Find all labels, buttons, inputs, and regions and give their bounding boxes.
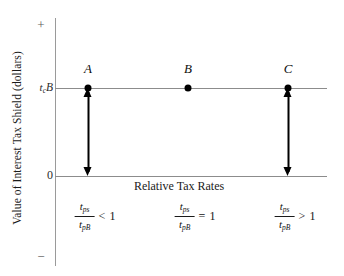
x-axis-title-text: Relative Tax Rates xyxy=(134,179,224,193)
formula-b-right: 1 xyxy=(209,209,215,224)
formula-c: tps tpB > 1 xyxy=(275,200,316,232)
arrow-point-a xyxy=(83,88,94,176)
fraction-c: tps tpB xyxy=(275,200,295,232)
point-c-label: C xyxy=(284,62,293,75)
x-axis-title: Relative Tax Rates xyxy=(0,179,344,194)
formula-b: tps tpB = 1 xyxy=(175,200,216,232)
fraction-a-num-sub: ps xyxy=(83,205,90,214)
fraction-b-num-sub: ps xyxy=(183,205,190,214)
fraction-b-den-sub: pB xyxy=(182,223,190,232)
fraction-c-num-sub: ps xyxy=(283,205,290,214)
axis-minus-sign: − xyxy=(33,250,49,263)
point-a-label: A xyxy=(84,62,92,75)
formula-c-relation: > xyxy=(299,209,306,224)
y-axis-title-text: Value of Interest Tax Shield (dollars) xyxy=(11,51,23,225)
point-c-marker xyxy=(285,85,292,92)
fraction-a-denominator: tpB xyxy=(77,217,92,233)
fraction-c-den-sub: pB xyxy=(282,223,290,232)
formula-a-relation: < xyxy=(99,209,106,224)
y-axis-line xyxy=(55,18,56,266)
arrow-shaft xyxy=(87,92,89,172)
fraction-a-numerator: tps xyxy=(78,200,92,216)
ytick-label-tcb: tcB xyxy=(40,82,53,95)
fraction-b-denominator: tpB xyxy=(177,217,192,233)
formula-b-relation: = xyxy=(199,209,206,224)
tax-shield-figure: Value of Interest Tax Shield (dollars) +… xyxy=(0,0,344,276)
gridline-zero xyxy=(55,176,327,177)
ytick-tcb-bond: B xyxy=(46,81,53,93)
arrow-shaft xyxy=(287,92,289,172)
point-b-label: B xyxy=(184,62,192,75)
fraction-c-numerator: tps xyxy=(278,200,292,216)
fraction-c-denominator: tpB xyxy=(277,217,292,233)
fraction-a-den-sub: pB xyxy=(82,223,90,232)
formula-a: tps tpB < 1 xyxy=(75,200,116,232)
axis-plus-sign: + xyxy=(33,18,49,31)
fraction-a: tps tpB xyxy=(75,200,95,232)
fraction-b: tps tpB xyxy=(175,200,195,232)
fraction-b-numerator: tps xyxy=(178,200,192,216)
arrow-point-c xyxy=(283,88,294,176)
arrow-head-down-icon xyxy=(84,167,92,176)
formula-c-right: 1 xyxy=(309,209,315,224)
y-axis-title: Value of Interest Tax Shield (dollars) xyxy=(10,0,24,276)
formula-a-right: 1 xyxy=(109,209,115,224)
point-a-marker xyxy=(85,85,92,92)
point-b-marker xyxy=(185,85,192,92)
arrow-head-down-icon xyxy=(284,167,292,176)
